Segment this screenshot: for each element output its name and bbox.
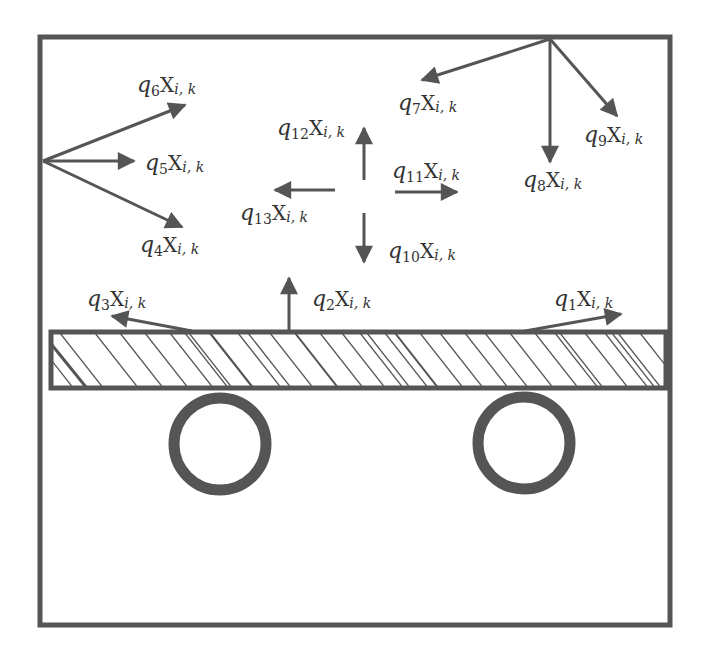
arrow-q7-icon (422, 39, 550, 80)
arrow-q1-icon (525, 314, 621, 331)
label-q3: q3Xi, k (87, 286, 146, 313)
hatched-beam (30, 332, 684, 392)
label-q4: q4Xi, k (140, 232, 199, 259)
label-q10: q10Xi, k (388, 238, 456, 265)
label-q1: q1Xi, k (554, 286, 613, 313)
left-wheel-icon (174, 398, 266, 490)
arrow-q3-icon (112, 316, 192, 331)
label-q11: q11Xi, k (392, 158, 460, 185)
label-q7: q7Xi, k (398, 90, 457, 117)
arrow-q9-icon (550, 39, 617, 116)
right-wheel-icon (478, 397, 570, 489)
label-q13: q13Xi, k (240, 200, 308, 227)
label-q2: q2Xi, k (312, 286, 371, 313)
heat-flow-diagram: q6Xi, k q5Xi, k q4Xi, k q12Xi, k q13Xi, … (0, 0, 706, 652)
label-q8: q8Xi, k (523, 167, 582, 194)
label-q9: q9Xi, k (584, 122, 643, 149)
label-q6: q6Xi, k (137, 72, 196, 99)
arrow-q6-icon (43, 105, 185, 161)
label-q12: q12Xi, k (277, 115, 345, 142)
label-q5: q5Xi, k (145, 150, 204, 177)
